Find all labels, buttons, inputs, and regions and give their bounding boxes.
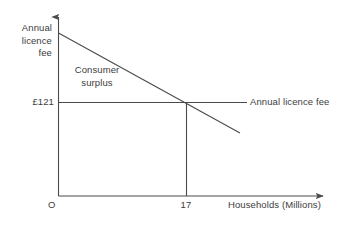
economics-diagram: Annual licence fee Consumer surplus £121… xyxy=(0,0,347,231)
origin-label: O xyxy=(48,199,56,212)
diagram-canvas xyxy=(0,0,347,231)
quantity-tick-label: 17 xyxy=(174,199,198,212)
consumer-surplus-label: Consumer surplus xyxy=(62,64,132,89)
y-axis-title: Annual licence fee xyxy=(2,22,52,60)
price-line-label: Annual licence fee xyxy=(250,96,329,109)
x-axis-title: Households (Millions) xyxy=(228,199,321,212)
price-tick-label: £121 xyxy=(10,96,54,109)
